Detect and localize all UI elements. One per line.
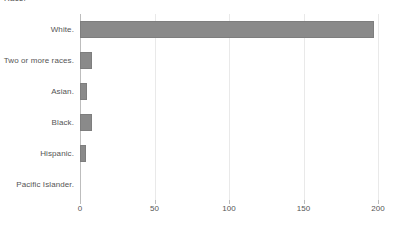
x-axis-tick-label: 100 [222,204,235,213]
chart-title: Race. [4,0,26,3]
bar-row [80,76,378,107]
x-axis-tick-label: 0 [78,204,82,213]
bar[interactable] [80,114,92,131]
gridline [378,14,379,200]
bar[interactable] [80,83,87,100]
bar-row [80,169,378,200]
bar[interactable] [80,52,92,69]
y-axis-label: Pacific Islander. [16,169,74,200]
bar-row [80,138,378,169]
x-axis-tick-label: 200 [371,204,384,213]
plot-area [80,14,378,200]
y-axis-label: Hispanic. [40,138,74,169]
bar-row [80,45,378,76]
bar[interactable] [80,21,374,38]
bar-row [80,107,378,138]
y-axis-label: Asian. [51,76,74,107]
bar-row [80,14,378,45]
x-axis-tick-label: 50 [150,204,159,213]
y-axis-label: Two or more races. [4,45,74,76]
bar-chart: Race. White.Two or more races.Asian.Blac… [0,0,398,228]
y-axis-label: Black. [52,107,74,138]
bar[interactable] [80,145,86,162]
x-axis-tick-label: 150 [297,204,310,213]
y-axis-label: White. [51,14,74,45]
